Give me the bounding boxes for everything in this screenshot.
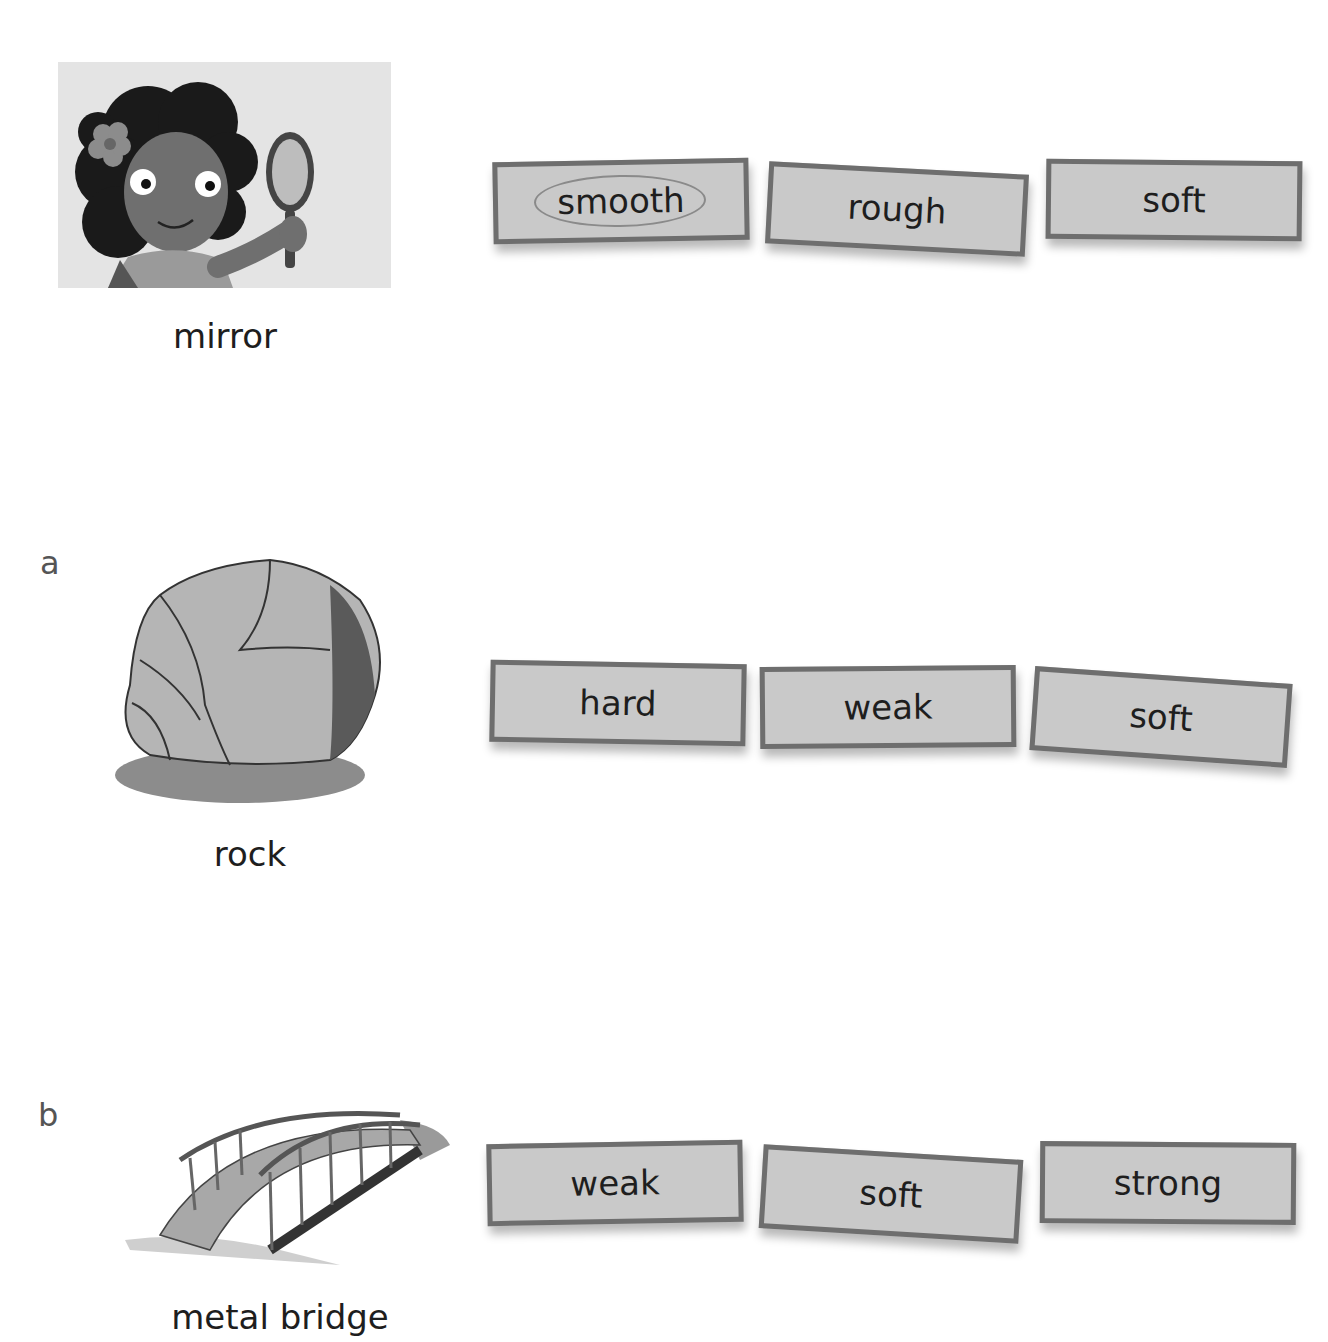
option-card-hard[interactable]: hard [489, 660, 746, 746]
question-label-b: b [38, 1096, 58, 1134]
option-card-weak[interactable]: weak [760, 665, 1017, 749]
metal-bridge-illustration [120, 1100, 455, 1275]
rock-illustration [110, 555, 390, 810]
option-card-strong[interactable]: strong [1040, 1141, 1297, 1225]
option-card-rough[interactable]: rough [765, 161, 1029, 256]
object-name-metal-bridge: metal bridge [160, 1297, 400, 1337]
question-label-a: a [40, 544, 60, 582]
option-card-weak[interactable]: weak [486, 1140, 743, 1226]
object-name-rock: rock [190, 834, 310, 874]
option-card-soft[interactable]: soft [1029, 666, 1292, 768]
girl-mirror-illustration [58, 62, 391, 288]
object-name-mirror: mirror [150, 316, 300, 356]
option-card-soft[interactable]: soft [759, 1144, 1024, 1244]
option-card-soft[interactable]: soft [1046, 159, 1303, 242]
option-card-smooth[interactable]: smooth [492, 158, 749, 244]
